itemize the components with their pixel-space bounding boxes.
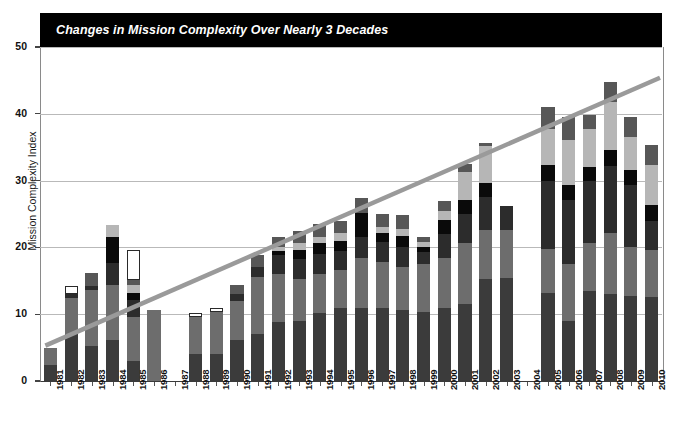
bar-segment <box>230 294 243 301</box>
bar-segment <box>44 348 57 365</box>
x-tick-label-2002: 2002 <box>490 370 501 390</box>
bar-segment <box>355 237 368 258</box>
bar-segment <box>438 220 451 234</box>
x-tick-mark <box>50 382 51 386</box>
x-tick-label-2009: 2009 <box>635 370 646 390</box>
bar-segment <box>479 279 492 381</box>
bar-segment <box>645 250 658 297</box>
bar-segment <box>645 205 658 221</box>
x-tick-mark <box>652 382 653 386</box>
x-tick-label-1988: 1988 <box>200 370 211 390</box>
bar-segment <box>438 201 451 212</box>
bar-segment <box>458 200 471 214</box>
x-tick-mark <box>175 382 176 386</box>
bar-segment <box>106 225 119 237</box>
x-tick-label-2006: 2006 <box>573 370 584 390</box>
bar-segment <box>604 82 617 102</box>
bar-1991 <box>251 255 264 381</box>
chart-title-banner: Changes in Mission Complexity Over Nearl… <box>40 13 662 47</box>
x-axis-labels: 1981198219831984198519861987198819891990… <box>40 382 662 428</box>
bar-segment <box>541 181 554 249</box>
bar-segment <box>230 285 243 294</box>
x-tick-label-1999: 1999 <box>428 370 439 390</box>
bar-segment <box>541 249 554 292</box>
bar-segment <box>604 294 617 381</box>
x-tick-label-2005: 2005 <box>552 370 563 390</box>
bar-2008 <box>604 82 617 381</box>
bar-1982 <box>65 285 78 381</box>
bar-segment <box>396 247 409 267</box>
bar-segment <box>127 300 140 317</box>
bar-segment <box>293 259 306 279</box>
bar-segment <box>355 258 368 307</box>
bar-segment <box>65 298 78 335</box>
bar-segment <box>376 214 389 227</box>
x-tick-mark <box>258 382 259 386</box>
bar-segment <box>458 172 471 200</box>
bar-segment <box>624 170 637 185</box>
bar-segment <box>604 233 617 294</box>
x-tick-label-1983: 1983 <box>96 370 107 390</box>
bar-segment <box>293 243 306 250</box>
chart-root: Mission Complexity Index 01020304050 198… <box>0 0 673 428</box>
bar-segment <box>500 230 513 278</box>
x-tick-label-1990: 1990 <box>241 370 252 390</box>
bar-segment <box>251 277 264 334</box>
bar-segment <box>438 211 451 220</box>
bar-segment <box>376 262 389 307</box>
bar-segment <box>189 317 202 354</box>
x-tick-mark <box>361 382 362 386</box>
bar-segment <box>293 279 306 320</box>
bar-segment <box>500 278 513 381</box>
bar-segment <box>583 129 596 166</box>
bar-1994 <box>313 224 326 381</box>
bar-segment <box>624 117 637 136</box>
y-tick-label: 10 <box>0 307 27 319</box>
bar-1997 <box>376 214 389 381</box>
bar-segment <box>127 293 140 300</box>
x-tick-mark <box>569 382 570 386</box>
bar-segment <box>334 221 347 233</box>
y-tick-label: 20 <box>0 240 27 252</box>
bar-segment <box>293 250 306 259</box>
x-tick-label-2008: 2008 <box>614 370 625 390</box>
bar-1992 <box>272 237 285 381</box>
x-tick-mark <box>507 382 508 386</box>
bar-segment <box>624 296 637 382</box>
bar-segment <box>479 230 492 279</box>
x-tick-mark <box>278 382 279 386</box>
x-tick-label-1995: 1995 <box>345 370 356 390</box>
x-tick-label-1985: 1985 <box>137 370 148 390</box>
x-tick-label-2007: 2007 <box>593 370 604 390</box>
bar-segment <box>583 181 596 242</box>
x-tick-label-2004: 2004 <box>531 370 542 390</box>
bar-segment <box>334 251 347 270</box>
bar-segment <box>210 312 223 355</box>
x-tick-mark <box>527 382 528 386</box>
x-tick-mark <box>71 382 72 386</box>
bar-1990 <box>230 285 243 381</box>
x-tick-mark <box>403 382 404 386</box>
bar-segment <box>313 224 326 237</box>
bar-segment <box>479 183 492 196</box>
bar-segment <box>583 291 596 381</box>
bar-segment <box>562 117 575 140</box>
bar-segment <box>541 107 554 130</box>
bar-segment <box>127 317 140 361</box>
bar-segment <box>438 234 451 258</box>
bar-segment <box>604 166 617 233</box>
x-tick-label-1987: 1987 <box>179 370 190 390</box>
bar-segment <box>562 200 575 264</box>
bar-segment <box>438 258 451 307</box>
x-tick-mark <box>92 382 93 386</box>
chart-title: Changes in Mission Complexity Over Nearl… <box>56 23 388 37</box>
bar-1996 <box>355 198 368 381</box>
bar-segment <box>562 140 575 185</box>
bar-2005 <box>541 106 554 381</box>
x-tick-mark <box>465 382 466 386</box>
bar-segment <box>272 274 285 322</box>
bar-segment <box>562 264 575 321</box>
x-tick-mark <box>196 382 197 386</box>
bar-2006 <box>562 116 575 381</box>
bar-segment <box>604 150 617 166</box>
